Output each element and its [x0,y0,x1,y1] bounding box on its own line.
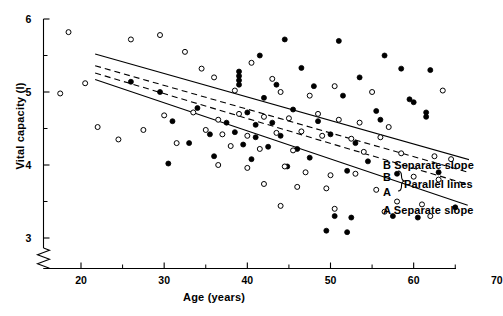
legend-label-b-separate-slope: B Separate slope [383,159,474,171]
legend-label-b-parallel: B [383,171,391,183]
legend-label-a-parallel: A [383,186,391,198]
fit-line-b-separate-slope [95,54,469,163]
y-axis-title: Vital capacity (l) [14,71,26,181]
y-tick-label: 3 [26,232,32,244]
x-tick-label: 20 [75,274,87,286]
x-tick-label: 70 [491,274,503,286]
legend-label-a-separate-slope: A Separate slope [383,204,473,216]
y-tick-label: 6 [26,13,32,25]
x-axis-title: Age (years) [183,291,245,303]
x-tick-label: 60 [408,274,420,286]
x-tick-label: 50 [325,274,337,286]
x-tick-label: 40 [241,274,253,286]
legend-label-parallel-lines: Parallel lines [404,178,473,190]
y-tick-label: 4 [26,159,32,171]
y-tick-label: 5 [26,86,32,98]
x-tick-label: 30 [158,274,170,286]
